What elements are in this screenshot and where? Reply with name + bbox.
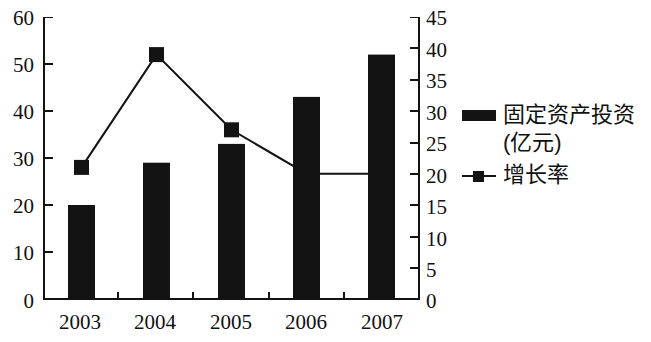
x-axis-category-label-2004: 2004 <box>118 312 192 333</box>
x-axis-category-label-2003: 2003 <box>43 312 117 333</box>
right-axis-tick-label-15: 15 <box>426 197 447 218</box>
chart-legend: 固定资产投资 (亿元) 增长率 <box>462 101 651 191</box>
x-axis-category-label-2005: 2005 <box>194 312 268 333</box>
right-axis-tick-label-35: 35 <box>426 71 447 92</box>
left-axis-tick-label-30: 30 <box>0 149 34 170</box>
right-axis-tick-label-5: 5 <box>426 260 437 281</box>
legend-line-marker-icon <box>462 169 496 183</box>
right-axis-tick-label-0: 0 <box>426 291 437 312</box>
x-axis-category-label-2006: 2006 <box>269 312 343 333</box>
right-axis-tick-label-10: 10 <box>426 229 447 250</box>
bar-2004 <box>143 163 170 299</box>
legend-bar-swatch-icon <box>462 110 496 121</box>
right-axis-tick-label-40: 40 <box>426 40 447 61</box>
left-axis-ticks <box>44 17 53 252</box>
right-axis-ticks <box>410 17 419 268</box>
left-axis-tick-label-40: 40 <box>0 102 34 123</box>
x-axis-category-label-2007: 2007 <box>345 312 419 333</box>
right-axis-tick-label-30: 30 <box>426 103 447 124</box>
plot-area <box>43 17 420 300</box>
left-axis-tick-label-0: 0 <box>0 291 34 312</box>
legend-square-marker-icon <box>473 171 484 182</box>
bar-series <box>68 55 395 299</box>
legend-item-growth-rate: 增长率 <box>462 161 651 189</box>
line-marker-2004 <box>149 47 164 62</box>
left-axis-tick-label-10: 10 <box>0 243 34 264</box>
line-marker-2005 <box>224 122 239 137</box>
right-axis-tick-label-45: 45 <box>426 8 447 29</box>
bar-2006 <box>293 97 320 299</box>
legend-label-fixed-asset-investment: 固定资产投资 (亿元) <box>503 101 635 157</box>
chart-canvas <box>43 17 420 300</box>
right-axis-tick-label-20: 20 <box>426 166 447 187</box>
chart-figure: 60 50 40 30 20 10 0 45 40 35 30 25 20 15… <box>0 0 651 342</box>
right-axis-tick-label-25: 25 <box>426 134 447 155</box>
left-axis-tick-label-20: 20 <box>0 196 34 217</box>
line-marker-2007 <box>374 166 389 181</box>
line-marker-2006 <box>299 166 314 181</box>
legend-item-fixed-asset-investment: 固定资产投资 (亿元) <box>462 101 651 157</box>
line-marker-2003 <box>74 160 89 175</box>
bar-2003 <box>68 205 95 299</box>
left-axis-tick-label-50: 50 <box>0 55 34 76</box>
bar-2005 <box>218 144 245 299</box>
legend-label-growth-rate: 增长率 <box>503 161 569 189</box>
left-axis-tick-label-60: 60 <box>0 8 34 29</box>
